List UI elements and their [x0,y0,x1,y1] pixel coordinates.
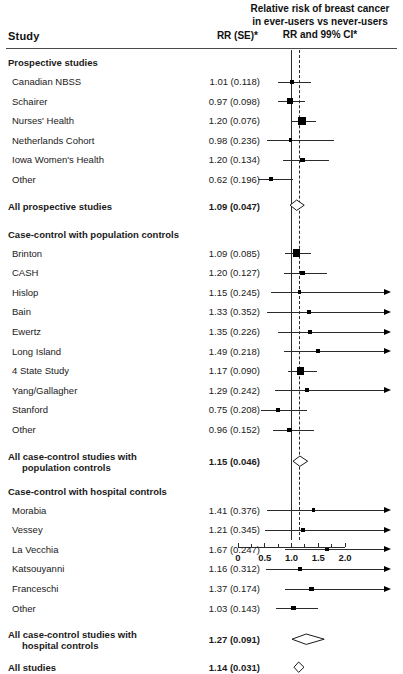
confidence-interval-line [266,569,384,570]
study-label: CASH [12,267,38,278]
confidence-interval-line [265,530,384,531]
point-estimate-marker [301,528,305,532]
header-rule [6,48,397,49]
rr-se-value: 0.75 (0.208) [168,404,260,415]
plot-title-line3: RR and 99% CI* [240,28,400,41]
study-label: Canadian NBSS [12,76,81,87]
confidence-interval-line [278,82,311,83]
rr-se-value: 1.20 (0.127) [168,267,260,278]
study-label: Nurses' Health [12,115,74,126]
confidence-interval-line [285,253,311,254]
point-estimate-marker [293,249,300,256]
rr-se-value: 1.15 (0.046) [168,456,260,467]
point-estimate-marker [307,310,311,314]
null-reference-line [291,50,292,540]
point-estimate-marker [269,177,273,181]
rr-se-value: 1.49 (0.218) [168,346,260,357]
rr-se-value: 1.14 (0.031) [168,662,260,673]
confidence-interval-line [261,410,306,411]
confidence-interval-line [283,160,328,161]
rr-se-value: 1.29 (0.242) [168,385,260,396]
study-label: Long Island [12,346,61,357]
summary-diamond-marker [292,455,309,467]
ci-overflow-arrow-icon [384,387,391,393]
study-label: Hislop [12,287,38,298]
rr-se-value: 1.27 (0.091) [168,634,260,645]
rr-se-value: 1.17 (0.090) [168,365,260,376]
point-estimate-marker [291,606,296,611]
confidence-interval-line [278,332,384,333]
point-estimate-marker [300,158,305,163]
plot-title-line1: Relative risk of breast cancer [240,2,400,15]
summary-label-line2: hospital controls [22,640,99,651]
study-label: Vessey [12,524,43,535]
rr-se-value: 0.96 (0.152) [168,424,260,435]
point-estimate-marker [308,330,312,334]
point-estimate-marker [297,367,304,374]
axis-tick-label: 2.0 [330,552,360,563]
ci-overflow-arrow-icon [384,309,391,315]
axis-line [238,547,345,548]
summary-label: All case-control studies with [8,451,137,462]
axis-tick-minor [278,544,279,547]
axis-tick-minor [331,544,332,547]
confidence-interval-line [291,121,316,122]
confidence-interval-line [276,608,317,609]
ci-overflow-arrow-icon [384,566,391,572]
study-label: Brinton [12,248,42,259]
confidence-interval-line [267,312,384,313]
study-label: 4 State Study [12,365,69,376]
rr-se-value: 1.16 (0.312) [168,563,260,574]
axis-tick-major [318,543,319,547]
study-label: Other [12,603,36,614]
axis-tick-label: 1.5 [303,552,333,563]
axis-tick-label: 1.0 [277,552,307,563]
rr-se-value: 1.09 (0.085) [168,248,260,259]
confidence-interval-line [267,510,384,511]
confidence-interval-line [267,140,335,141]
rr-se-value: 0.97 (0.098) [168,96,260,107]
study-label: Schairer [12,96,47,107]
confidence-interval-line [288,371,317,372]
rr-se-value: 1.20 (0.134) [168,154,260,165]
plot-title-line2: in ever-users vs never-users [240,15,400,28]
rr-se-value: 1.09 (0.047) [168,201,260,212]
axis-tick-label: 0 [223,552,253,563]
rr-se-value: 1.37 (0.174) [168,583,260,594]
ci-overflow-arrow-icon [384,507,391,513]
rr-se-value: 1.01 (0.118) [168,76,260,87]
rr-se-value: 0.62 (0.196) [168,174,260,185]
ci-overflow-arrow-icon [384,348,391,354]
confidence-interval-line [271,292,384,293]
point-estimate-marker [312,508,316,512]
group-heading-label: Prospective studies [8,57,98,68]
study-label: Yang/Gallagher [12,385,77,396]
summary-diamond-marker [289,199,305,211]
point-estimate-marker [300,271,305,276]
confidence-interval-line [278,101,305,102]
axis-tick-minor [304,544,305,547]
confidence-interval-line [275,390,384,391]
pooled-reference-line [299,50,300,540]
column-header-study: Study [8,30,40,42]
study-label: La Vecchia [12,544,58,555]
point-estimate-marker [287,98,293,104]
confidence-interval-line [285,549,384,550]
confidence-interval-line [285,589,384,590]
confidence-interval-line [258,179,293,180]
point-estimate-marker [298,567,302,571]
point-estimate-marker [289,138,293,142]
summary-diamond-marker [293,661,305,673]
rr-se-value: 0.98 (0.236) [168,135,260,146]
point-estimate-marker [287,428,292,433]
rr-se-value: 1.21 (0.345) [168,524,260,535]
rr-se-value: 1.20 (0.076) [168,115,260,126]
study-label: Ewertz [12,326,41,337]
study-label: Bain [12,306,31,317]
axis-tick-major [238,543,239,547]
ci-overflow-arrow-icon [384,546,391,552]
axis-tick-major [291,543,292,547]
summary-label: All studies [8,662,56,673]
ci-overflow-arrow-icon [384,289,391,295]
